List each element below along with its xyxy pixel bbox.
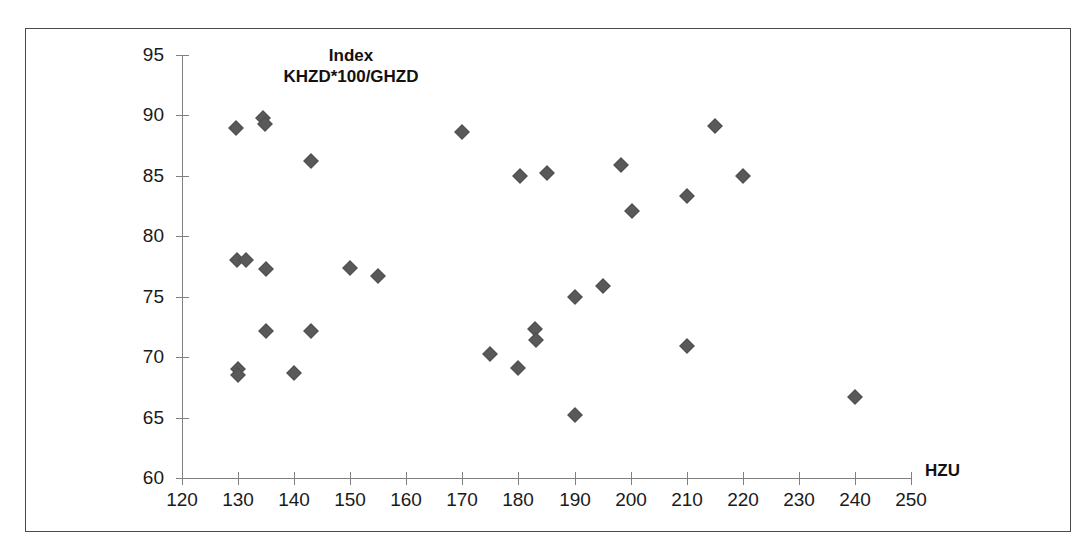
y-axis-tick-label: 90: [124, 105, 164, 124]
y-axis-tick-label: 80: [124, 226, 164, 245]
x-axis-tick: [294, 472, 295, 485]
x-axis-tick: [687, 472, 688, 485]
x-axis-tick: [743, 472, 744, 485]
y-axis-tick-label: 70: [124, 347, 164, 366]
chart-title-line-2: KHZD*100/GHZD: [236, 66, 466, 87]
x-axis-tick-label: 130: [208, 490, 268, 509]
x-axis-title: HZU: [925, 462, 960, 479]
scatter-chart-figure: 6065707580859095 12013014015016017018019…: [0, 0, 1091, 557]
x-axis-line: [182, 478, 912, 479]
x-axis-tick-label: 240: [825, 490, 885, 509]
x-axis-tick-label: 250: [881, 490, 941, 509]
x-axis-tick-label: 220: [713, 490, 773, 509]
y-axis-tick-label: 60: [124, 468, 164, 487]
x-axis-tick-label: 180: [488, 490, 548, 509]
y-axis-tick: [176, 357, 189, 358]
y-axis-tick: [176, 236, 189, 237]
x-axis-tick-label: 160: [376, 490, 436, 509]
x-axis-tick: [799, 472, 800, 485]
x-axis-tick-label: 140: [264, 490, 324, 509]
y-axis-tick: [176, 176, 189, 177]
x-axis-tick-label: 170: [432, 490, 492, 509]
chart-title: Index KHZD*100/GHZD: [236, 45, 466, 88]
x-axis-tick-label: 200: [601, 490, 661, 509]
x-axis-tick: [182, 472, 183, 485]
x-axis-tick: [406, 472, 407, 485]
y-axis-tick: [176, 418, 189, 419]
x-axis-tick: [350, 472, 351, 485]
x-axis-tick: [575, 472, 576, 485]
x-axis-tick: [462, 472, 463, 485]
y-axis-tick-label: 85: [124, 166, 164, 185]
x-axis-tick: [911, 472, 912, 485]
x-axis-tick-label: 210: [657, 490, 717, 509]
x-axis-tick: [631, 472, 632, 485]
y-axis-tick: [176, 55, 189, 56]
y-axis-tick-label: 65: [124, 408, 164, 427]
x-axis-tick-label: 190: [545, 490, 605, 509]
x-axis-tick: [518, 472, 519, 485]
chart-title-line-1: Index: [236, 45, 466, 66]
x-axis-tick-label: 230: [769, 490, 829, 509]
x-axis-tick-label: 150: [320, 490, 380, 509]
y-axis-tick-label: 95: [124, 45, 164, 64]
x-axis-tick: [238, 472, 239, 485]
y-axis-tick: [176, 115, 189, 116]
x-axis-tick: [855, 472, 856, 485]
y-axis-tick-label: 75: [124, 287, 164, 306]
x-axis-tick-label: 120: [152, 490, 212, 509]
y-axis-line: [182, 55, 183, 479]
y-axis-tick: [176, 297, 189, 298]
